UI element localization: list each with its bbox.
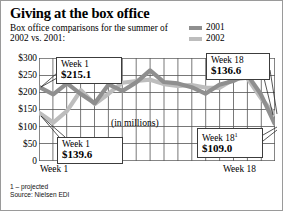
callout-week18-2001: Week 181 $109.0 <box>197 128 263 158</box>
callout-value: $215.1 <box>61 69 117 81</box>
callout-value: $136.6 <box>211 65 265 77</box>
callout-value: $139.6 <box>62 149 118 161</box>
callout-leader-lines <box>1 1 283 211</box>
callout-week1-2002: Week 1 $139.6 <box>57 137 123 164</box>
callout-week1-2001: Week 1 $215.1 <box>56 57 122 84</box>
infographic-chart-card: Giving at the box office Box office comp… <box>0 0 283 211</box>
callout-week18-2002: Week 18 $136.6 <box>206 53 270 80</box>
callout-footnote-marker: 1 <box>235 131 238 138</box>
callout-value: $109.0 <box>202 143 258 155</box>
